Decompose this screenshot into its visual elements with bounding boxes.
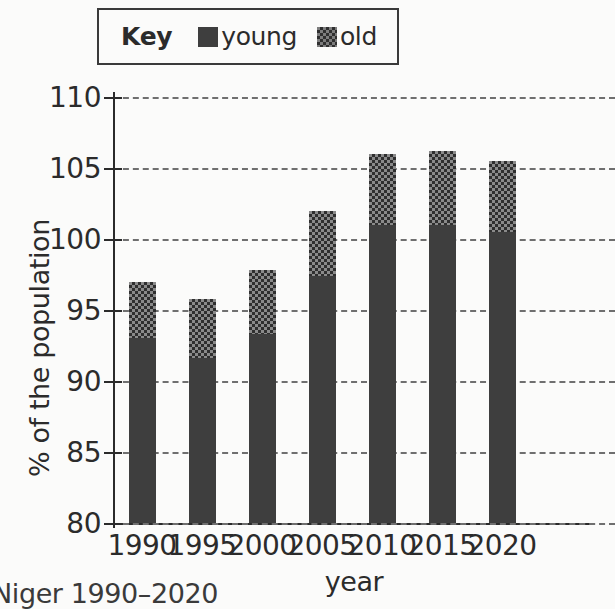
y-tick-mark-110	[104, 97, 122, 99]
bar-2010	[369, 154, 396, 523]
x-tick-label-2005: 2005	[288, 529, 357, 562]
bar-2015	[429, 151, 456, 523]
x-tick-label-1990: 1990	[108, 529, 177, 562]
y-tick-label-85: 85	[66, 436, 101, 469]
bar-1990	[129, 282, 156, 523]
y-tick-label-90: 90	[66, 365, 101, 398]
x-tick-label-2010: 2010	[348, 529, 417, 562]
y-tick-mark-105	[104, 168, 122, 170]
bar-segment-young-2020	[489, 232, 516, 523]
bar-segment-young-2005	[309, 276, 336, 523]
x-tick-label-1995: 1995	[168, 529, 237, 562]
bar-segment-young-2015	[429, 225, 456, 523]
y-tick-mark-95	[104, 310, 122, 312]
bar-segment-old-2005	[309, 211, 336, 276]
y-tick-mark-100	[104, 239, 122, 241]
y-tick-mark-80	[104, 523, 122, 525]
y-tick-mark-85	[104, 452, 122, 454]
y-tick-label-100: 100	[49, 223, 101, 256]
bar-segment-old-2010	[369, 154, 396, 225]
bar-segment-old-2015	[429, 151, 456, 225]
gridline-110	[113, 97, 615, 99]
bar-1995	[189, 299, 216, 523]
bar-segment-young-2010	[369, 225, 396, 523]
y-tick-label-110: 110	[49, 81, 101, 114]
bar-segment-young-1990	[129, 338, 156, 523]
bar-segment-young-2000	[249, 334, 276, 523]
plot-area: 11010510095908580	[113, 97, 595, 523]
y-tick-label-95: 95	[66, 294, 101, 327]
x-tick-label-2020: 2020	[468, 529, 537, 562]
gridline-80	[113, 523, 615, 525]
bar-segment-old-1995	[189, 299, 216, 359]
x-tick-label-2015: 2015	[408, 529, 477, 562]
bar-segment-old-2020	[489, 161, 516, 232]
gridline-100	[113, 239, 615, 241]
gridline-105	[113, 168, 615, 170]
y-tick-label-105: 105	[49, 152, 101, 185]
chart-caption: Niger 1990–2020	[0, 578, 218, 609]
bar-segment-old-1990	[129, 282, 156, 339]
bar-2020	[489, 161, 516, 523]
y-tick-mark-90	[104, 381, 122, 383]
bar-2005	[309, 211, 336, 523]
bar-2000	[249, 270, 276, 523]
y-tick-label-80: 80	[66, 507, 101, 540]
x-tick-label-2000: 2000	[228, 529, 297, 562]
bar-segment-young-1995	[189, 358, 216, 523]
bar-segment-old-2000	[249, 270, 276, 334]
y-axis-title: % of the population	[0, 0, 25, 178]
